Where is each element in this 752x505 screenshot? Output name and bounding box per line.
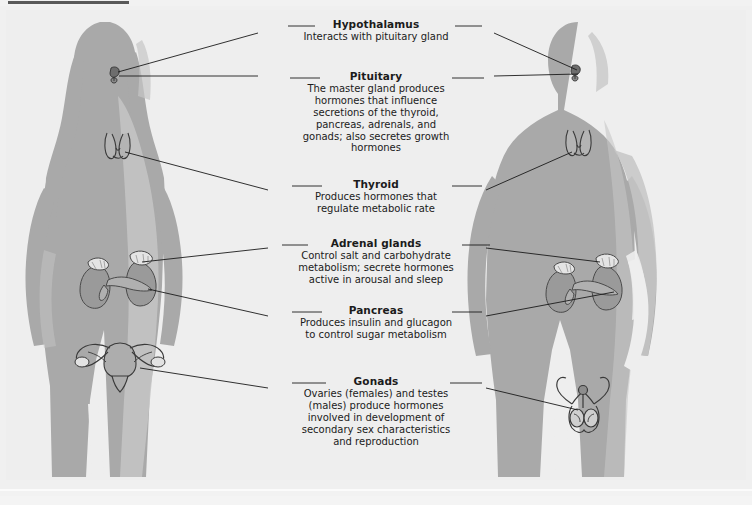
label-pituitary-title: Pituitary	[246, 70, 506, 82]
label-pituitary: Pituitary The master gland produces horm…	[246, 70, 506, 154]
label-adrenal-glands-title: Adrenal glands	[246, 237, 506, 249]
label-gonads: Gonads Ovaries (females) and testes (mal…	[246, 375, 506, 447]
endocrine-diagram: Hypothalamus Interacts with pituitary gl…	[0, 0, 752, 505]
label-thyroid-body: Produces hormones that regulate metaboli…	[246, 191, 506, 215]
label-pituitary-body: The master gland produces hormones that …	[246, 83, 506, 154]
label-hypothalamus: Hypothalamus Interacts with pituitary gl…	[246, 18, 506, 43]
label-pancreas-body: Produces insulin and glucagon to control…	[246, 317, 506, 341]
label-thyroid-title: Thyroid	[246, 178, 506, 190]
label-adrenal-glands-body: Control salt and carbohydrate metabolism…	[246, 250, 506, 285]
label-thyroid: Thyroid Produces hormones that regulate …	[246, 178, 506, 215]
pituitary-gland-male	[571, 65, 580, 81]
label-pancreas: Pancreas Produces insulin and glucagon t…	[246, 304, 506, 341]
bottom-rule-divider	[0, 489, 752, 491]
label-adrenal-glands: Adrenal glands Control salt and carbohyd…	[246, 237, 506, 286]
bottom-margin-band	[0, 496, 752, 505]
label-hypothalamus-title: Hypothalamus	[246, 18, 506, 30]
female-figure	[25, 22, 182, 477]
label-hypothalamus-body: Interacts with pituitary gland	[246, 31, 506, 43]
label-gonads-title: Gonads	[246, 375, 506, 387]
label-pancreas-title: Pancreas	[246, 304, 506, 316]
label-gonads-body: Ovaries (females) and testes (males) pro…	[246, 388, 506, 447]
